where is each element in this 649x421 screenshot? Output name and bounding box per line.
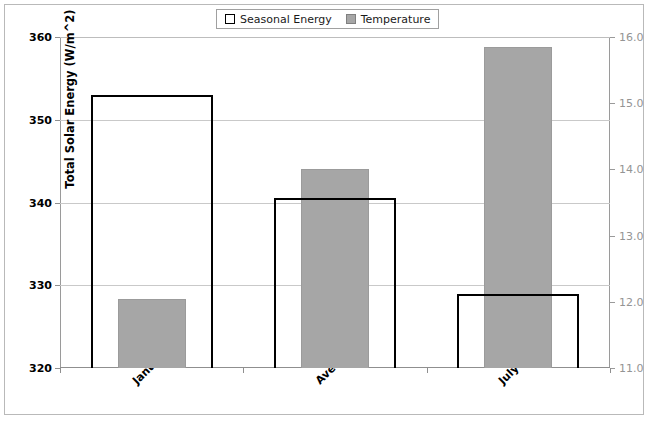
tick-left-350 xyxy=(55,120,60,121)
right-tick-label-15.0: 15.0 xyxy=(619,98,644,109)
legend-label-temperature: Temperature xyxy=(361,14,431,25)
tick-left-340 xyxy=(55,203,60,204)
legend-entry-seasonal-energy: Seasonal Energy xyxy=(225,14,332,25)
chart-container: Seasonal Energy Temperature 320330340350… xyxy=(0,0,649,421)
tick-category-2 xyxy=(427,368,428,373)
left-tick-label-340: 340 xyxy=(8,198,52,209)
left-axis-title: Total Solar Energy (W/m^2) xyxy=(63,0,77,209)
tick-left-360 xyxy=(55,37,60,38)
tick-right-15.0 xyxy=(610,103,615,104)
tick-right-13.0 xyxy=(610,236,615,237)
left-tick-label-330: 330 xyxy=(8,280,52,291)
left-tick-label-320: 320 xyxy=(8,363,52,374)
left-tick-label-360: 360 xyxy=(8,32,52,43)
tick-right-16.0 xyxy=(610,37,615,38)
tick-right-12.0 xyxy=(610,302,615,303)
legend-label-seasonal-energy: Seasonal Energy xyxy=(240,14,332,25)
bar-seasonal-energy-average xyxy=(274,198,396,368)
tick-right-14.0 xyxy=(610,169,615,170)
tick-category-0 xyxy=(60,368,61,373)
tick-left-330 xyxy=(55,285,60,286)
right-tick-label-11.0: 11.0 xyxy=(619,363,644,374)
legend-swatch-icon-temperature xyxy=(346,14,356,24)
right-tick-label-16.0: 16.0 xyxy=(619,32,644,43)
legend-entry-temperature: Temperature xyxy=(346,14,431,25)
chart-legend: Seasonal Energy Temperature xyxy=(216,9,439,29)
plot-area xyxy=(60,37,610,368)
bar-seasonal-energy-january xyxy=(91,95,213,368)
right-tick-label-12.0: 12.0 xyxy=(619,297,644,308)
tick-category-1 xyxy=(243,368,244,373)
gridline-left-360 xyxy=(60,37,610,38)
legend-swatch-icon-seasonal-energy xyxy=(225,14,235,24)
right-tick-label-14.0: 14.0 xyxy=(619,164,644,175)
left-tick-label-350: 350 xyxy=(8,115,52,126)
right-tick-label-13.0: 13.0 xyxy=(619,231,644,242)
tick-category-end xyxy=(610,368,611,373)
bar-seasonal-energy-july xyxy=(457,294,579,368)
